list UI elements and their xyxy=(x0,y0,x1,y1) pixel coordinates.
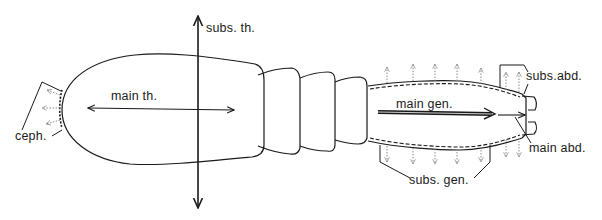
terminal-lobe-upper xyxy=(522,96,536,110)
insect-body-diagram xyxy=(0,0,602,220)
label-main-th: main th. xyxy=(111,90,157,103)
label-ceph: ceph. xyxy=(15,130,47,143)
ceph-bracket xyxy=(22,82,61,130)
label-main-gen: main gen. xyxy=(396,98,453,111)
subs-gen-bracket-right xyxy=(474,145,490,178)
ceph-arrow-1 xyxy=(47,90,60,95)
label-main-abd: main abd. xyxy=(529,142,586,155)
label-subs-gen: subs. gen. xyxy=(409,174,469,187)
subs-gen-bracket xyxy=(380,145,410,178)
ceph-leader xyxy=(52,130,62,136)
subs-abd-leader xyxy=(524,84,528,94)
label-subs-th: subs. th. xyxy=(206,22,255,35)
label-subs-abd: subs.abd. xyxy=(526,70,582,83)
ceph-arrow-3 xyxy=(46,120,60,124)
abdomen-segment-2 xyxy=(300,72,335,151)
main-th-arrow xyxy=(88,108,234,110)
terminal-lobe-lower xyxy=(522,122,536,135)
subs-abd-bracket xyxy=(500,65,528,88)
abdomen-segment-3 xyxy=(335,77,367,144)
genital-inner-dashed-top xyxy=(370,84,520,97)
